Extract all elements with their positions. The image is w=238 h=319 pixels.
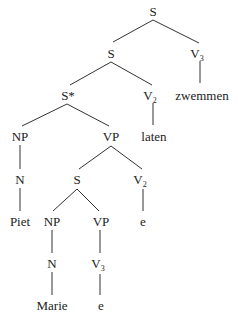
node-np2: NP <box>44 214 61 229</box>
syntax-tree: S S V3 zwemmen S* V2 laten NP VP N S V2 … <box>0 0 238 319</box>
tree-edges <box>20 20 200 295</box>
tree-nodes: S S V3 zwemmen S* V2 laten NP VP N S V2 … <box>10 4 229 313</box>
edge-vp-s <box>79 146 111 169</box>
node-vp2: VP <box>93 214 110 229</box>
node-np1: NP <box>12 129 29 144</box>
edge-s2-v2 <box>111 62 152 85</box>
node-sstar: S* <box>61 88 75 103</box>
edge-vp-v2 <box>111 146 142 169</box>
node-vp1: VP <box>103 129 120 144</box>
node-n2: N <box>47 256 57 271</box>
edge-root-s2 <box>113 20 153 42</box>
edge-sstar-np <box>22 104 67 126</box>
edge-s2-sstar <box>70 62 111 85</box>
leaf-e2: e <box>98 298 104 313</box>
edge-root-v3 <box>153 20 199 43</box>
node-v2-low: V2 <box>133 172 146 189</box>
leaf-marie: Marie <box>36 298 67 313</box>
node-s3: S <box>73 172 80 187</box>
node-root: S <box>149 4 156 19</box>
leaf-e1: e <box>140 214 146 229</box>
node-s2: S <box>107 46 114 61</box>
edge-s-vp <box>77 189 99 211</box>
edge-s-np <box>53 189 77 211</box>
edge-sstar-vp <box>67 104 109 126</box>
node-v2-mid: V2 <box>143 88 156 105</box>
leaf-piet: Piet <box>10 214 31 229</box>
leaf-laten: laten <box>141 129 167 144</box>
leaf-zwemmen: zwemmen <box>175 88 229 103</box>
node-v3-low: V3 <box>91 256 104 273</box>
node-v3-top: V3 <box>190 46 203 63</box>
node-n1: N <box>15 172 25 187</box>
